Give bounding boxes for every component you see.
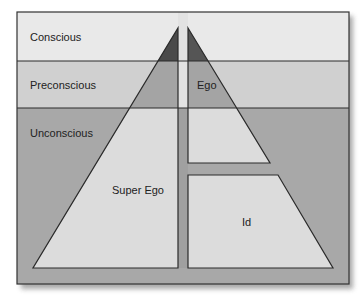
label-unconscious: Unconscious	[30, 127, 93, 139]
label-super-ego: Super Ego	[112, 184, 164, 196]
label-preconscious: Preconscious	[30, 79, 97, 91]
center-gap-upper	[178, 12, 188, 108]
label-ego: Ego	[197, 79, 217, 91]
label-id: Id	[242, 216, 251, 228]
psyche-diagram: Conscious Preconscious Unconscious Super…	[0, 0, 362, 297]
center-gap-lower	[178, 108, 188, 268]
label-conscious: Conscious	[30, 31, 82, 43]
